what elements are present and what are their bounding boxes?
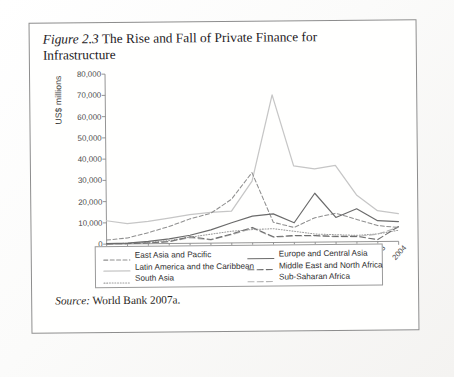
y-tick-label: 20,000 [78, 197, 102, 206]
y-axis-ticks: 010,00020,00030,00040,00050,00060,00070,… [55, 74, 103, 244]
y-tick-label: 60,000 [77, 112, 101, 121]
y-tick-label: 70,000 [77, 91, 101, 100]
y-tick-label: 40,000 [78, 155, 102, 164]
legend-label: Middle East and North Africa [279, 260, 383, 270]
legend-label: Latin America and the Caribbean [135, 262, 254, 272]
x-tick-label: 2004 [390, 243, 408, 262]
legend-label: Sub-Saharan Africa [279, 272, 350, 282]
source-prefix: Source: [55, 294, 90, 306]
source-text: World Bank 2007a. [90, 293, 181, 306]
y-tick-label: 50,000 [77, 133, 101, 142]
scanned-page: Figure 2.3 The Rise and Fall of Private … [0, 0, 454, 377]
figure-source: Source: World Bank 2007a. [55, 293, 180, 306]
figure-caption: Figure 2.3 The Rise and Fall of Private … [43, 28, 393, 63]
legend-label: Europe and Central Asia [279, 249, 368, 259]
figure-label: Figure 2.3 [43, 31, 99, 47]
chart-legend: East Asia and PacificLatin America and t… [95, 243, 383, 288]
legend-column-left: East Asia and PacificLatin America and t… [104, 249, 255, 285]
legend-label: East Asia and Pacific [135, 250, 212, 260]
plot-area [105, 71, 399, 244]
plot-svg [105, 71, 399, 244]
legend-label: South Asia [135, 274, 174, 283]
figure-container: Figure 2.3 The Rise and Fall of Private … [29, 19, 418, 332]
series-line [105, 94, 398, 224]
y-tick-label: 80,000 [77, 70, 101, 79]
y-tick-label: 10,000 [78, 218, 102, 227]
legend-column-right: Europe and Central AsiaMiddle East and N… [248, 247, 383, 283]
y-tick-label: 30,000 [78, 176, 102, 185]
